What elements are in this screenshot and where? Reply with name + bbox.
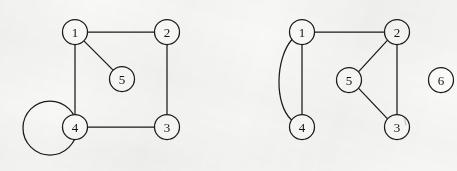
right-node-1: 1 xyxy=(290,20,315,45)
left-node-2-label: 2 xyxy=(164,25,171,40)
left-node-2: 2 xyxy=(155,20,180,45)
right-node-2: 2 xyxy=(385,20,410,45)
left-node-1-label: 1 xyxy=(72,25,79,40)
left-node-4-label: 4 xyxy=(72,120,79,135)
left-node-5: 5 xyxy=(110,67,135,92)
left-node-5-label: 5 xyxy=(119,72,126,87)
left-graph: 1 2 3 4 5 xyxy=(23,20,180,156)
right-node-4-label: 4 xyxy=(299,120,306,135)
left-edge-1-5 xyxy=(84,41,113,70)
right-node-5: 5 xyxy=(337,68,362,93)
right-edge-2-5 xyxy=(358,40,387,72)
right-node-4: 4 xyxy=(290,115,315,140)
right-node-1-label: 1 xyxy=(299,25,306,40)
right-edge-5-3 xyxy=(359,89,387,119)
left-node-3: 3 xyxy=(155,115,180,140)
left-node-1: 1 xyxy=(63,20,88,45)
right-graph: 1 2 3 4 5 6 xyxy=(279,20,454,140)
figure-canvas: 1 2 3 4 5 xyxy=(0,0,457,171)
right-node-6-label: 6 xyxy=(438,73,445,88)
right-node-3-label: 3 xyxy=(394,120,401,135)
graph-pair-diagram: 1 2 3 4 5 xyxy=(0,0,457,171)
right-node-6: 6 xyxy=(429,68,454,93)
left-node-4: 4 xyxy=(63,115,88,140)
left-node-3-label: 3 xyxy=(164,120,171,135)
right-edge-1-4-curved xyxy=(279,40,292,121)
right-node-2-label: 2 xyxy=(394,25,401,40)
right-node-5-label: 5 xyxy=(346,73,353,88)
right-node-3: 3 xyxy=(385,115,410,140)
